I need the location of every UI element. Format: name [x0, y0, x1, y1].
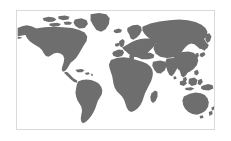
world-map-image — [0, 0, 231, 141]
map-frame — [16, 10, 215, 130]
world-map-svg — [17, 11, 214, 129]
